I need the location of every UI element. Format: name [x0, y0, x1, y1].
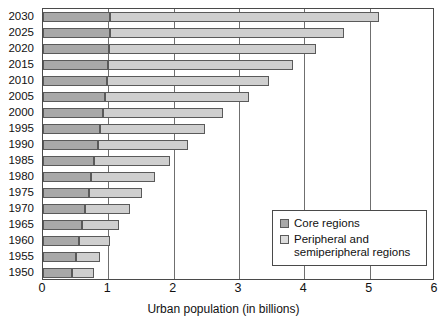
bar-segment-core: [43, 220, 82, 230]
bar-segment-core: [43, 108, 103, 118]
x-axis-tick-5: 5: [365, 282, 372, 295]
x-axis-tick-4: 4: [300, 282, 307, 295]
bar-segment-core: [43, 188, 89, 198]
y-axis-label-2010: 2010: [8, 75, 34, 87]
bar-row: [43, 28, 435, 38]
y-axis-label-2020: 2020: [8, 43, 34, 55]
y-axis-label-2030: 2030: [8, 11, 34, 23]
legend-label-peripheral: Peripheral and semiperipheral regions: [294, 233, 410, 259]
bar-segment-core: [43, 268, 72, 278]
bar-row: [43, 188, 435, 198]
bar-segment-peripheral: [103, 108, 223, 118]
legend-swatch-core-icon: [280, 219, 289, 228]
bar-row: [43, 268, 435, 278]
bar-segment-peripheral: [110, 28, 344, 38]
bar-segment-core: [43, 12, 110, 22]
bar-segment-peripheral: [107, 76, 269, 86]
bar-segment-peripheral: [98, 140, 188, 150]
bar-row: [43, 156, 435, 166]
bar-segment-peripheral: [72, 268, 94, 278]
x-axis-tick-3: 3: [235, 282, 242, 295]
y-axis-label-1950: 1950: [8, 267, 34, 279]
bar-segment-peripheral: [105, 92, 249, 102]
bar-segment-core: [43, 60, 108, 70]
bar-row: [43, 12, 435, 22]
bar-segment-core: [43, 140, 98, 150]
bar-segment-peripheral: [76, 252, 101, 262]
bar-segment-peripheral: [110, 12, 380, 22]
bar-segment-peripheral: [82, 220, 119, 230]
bar-segment-peripheral: [85, 204, 129, 214]
y-axis-label-1990: 1990: [8, 139, 34, 151]
bar-segment-peripheral: [79, 236, 110, 246]
x-axis-tick-1: 1: [104, 282, 111, 295]
bar-segment-core: [43, 204, 85, 214]
bar-row: [43, 60, 435, 70]
legend-item-core: Core regions: [280, 217, 420, 230]
bar-row: [43, 44, 435, 54]
bar-segment-core: [43, 28, 110, 38]
bar-segment-core: [43, 252, 76, 262]
bar-segment-core: [43, 76, 107, 86]
x-axis-tick-6: 6: [431, 282, 438, 295]
bar-row: [43, 108, 435, 118]
bar-row: [43, 76, 435, 86]
bar-segment-peripheral: [94, 156, 170, 166]
bar-row: [43, 172, 435, 182]
y-axis-label-1960: 1960: [8, 235, 34, 247]
bar-row: [43, 92, 435, 102]
y-axis-label-1980: 1980: [8, 171, 34, 183]
y-axis-label-1995: 1995: [8, 123, 34, 135]
x-axis-ticks: 0123456: [0, 282, 447, 298]
chart-legend: Core regions Peripheral and semiperipher…: [272, 210, 427, 266]
y-axis-label-1975: 1975: [8, 187, 34, 199]
bar-segment-core: [43, 44, 109, 54]
y-axis-year-labels: 2030202520202015201020052000199519901985…: [0, 8, 38, 280]
y-axis-label-1985: 1985: [8, 155, 34, 167]
y-axis-label-2015: 2015: [8, 59, 34, 71]
bar-segment-core: [43, 124, 100, 134]
x-axis-title: Urban population (in billions): [0, 302, 447, 316]
bar-segment-core: [43, 92, 105, 102]
y-axis-label-1965: 1965: [8, 219, 34, 231]
bar-row: [43, 140, 435, 150]
x-axis-tick-0: 0: [39, 282, 46, 295]
bar-segment-peripheral: [91, 172, 155, 182]
y-axis-label-1955: 1955: [8, 251, 34, 263]
y-axis-label-2025: 2025: [8, 27, 34, 39]
x-axis-tick-2: 2: [169, 282, 176, 295]
y-axis-label-2005: 2005: [8, 91, 34, 103]
bar-segment-core: [43, 156, 94, 166]
bar-segment-peripheral: [89, 188, 143, 198]
y-axis-label-2000: 2000: [8, 107, 34, 119]
legend-swatch-peripheral-icon: [280, 235, 289, 244]
bar-segment-peripheral: [109, 44, 316, 54]
bar-segment-peripheral: [108, 60, 293, 70]
bar-row: [43, 124, 435, 134]
bar-segment-peripheral: [100, 124, 205, 134]
y-axis-label-1970: 1970: [8, 203, 34, 215]
bar-segment-core: [43, 236, 79, 246]
legend-label-core: Core regions: [294, 217, 360, 230]
stacked-bar-chart: 2030202520202015201020052000199519901985…: [0, 0, 447, 323]
legend-item-peripheral: Peripheral and semiperipheral regions: [280, 233, 420, 259]
bar-segment-core: [43, 172, 91, 182]
